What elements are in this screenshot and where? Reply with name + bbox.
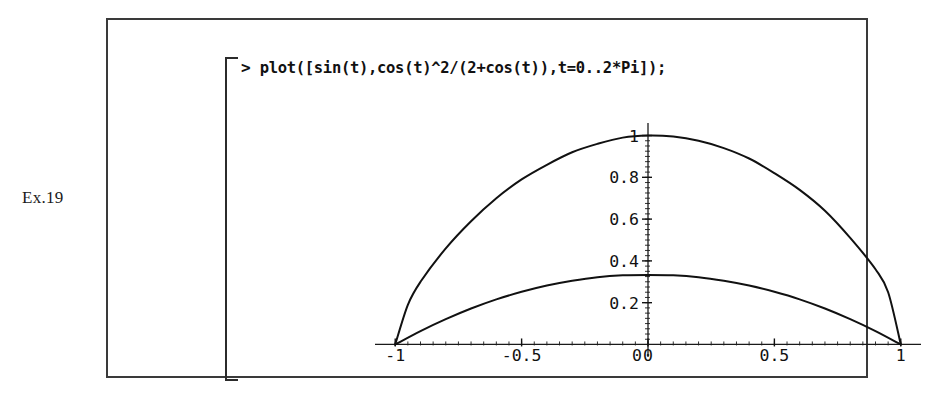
x-tick-label: -1 [385, 346, 405, 365]
bracket-stem [225, 57, 227, 381]
maple-group-bracket-icon[interactable] [225, 57, 239, 381]
y-tick-label: 0.4 [609, 252, 639, 271]
plot-output-area[interactable]: -1-0.500.51 00.20.40.60.81 [238, 98, 925, 380]
y-tick-label: 0.8 [609, 168, 639, 187]
parametric-plot: -1-0.500.51 00.20.40.60.81 [238, 98, 925, 380]
x-tick-label: 0.5 [759, 346, 789, 365]
x-tick-label: -0.5 [502, 346, 542, 365]
x-axis-tick-labels: -1-0.500.51 [385, 346, 905, 365]
prompt-icon: > [241, 60, 251, 76]
command-input-text[interactable]: plot([sin(t),cos(t)^2/(2+cos(t)),t=0..2*… [260, 61, 666, 77]
y-tick-label: 0 [632, 346, 642, 365]
y-tick-label: 0.6 [609, 210, 639, 229]
exercise-label: Ex.19 [22, 188, 64, 208]
bracket-bottom-foot [225, 379, 238, 381]
x-tick-label: 0 [643, 346, 653, 365]
worksheet-frame: > plot([sin(t),cos(t)^2/(2+cos(t)),t=0..… [106, 18, 868, 378]
y-axis-tick-labels: 00.20.40.60.81 [609, 127, 642, 366]
y-tick-label: 1 [629, 127, 639, 146]
x-tick-label: 1 [896, 346, 906, 365]
y-tick-label: 0.2 [609, 294, 639, 313]
command-input-line[interactable]: > plot([sin(t),cos(t)^2/(2+cos(t)),t=0..… [241, 60, 666, 77]
